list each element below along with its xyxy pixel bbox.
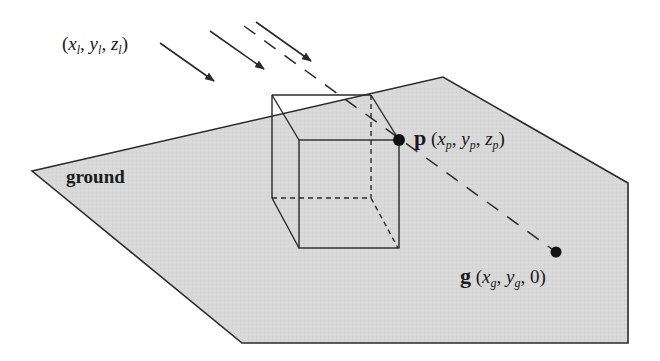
ground-plane bbox=[32, 77, 628, 343]
light-ray-arrow-1 bbox=[160, 43, 214, 81]
light-rays bbox=[160, 22, 311, 81]
shadow-projection-diagram: ground (xl, yl, zl) p (xp, yp, zp) g (xg… bbox=[0, 0, 660, 361]
point-p-label: p (xp, yp, zp) bbox=[414, 125, 505, 152]
light-source-label: (xl, yl, zl) bbox=[62, 33, 128, 57]
ground-label: ground bbox=[66, 166, 125, 187]
point-p-marker bbox=[393, 134, 405, 146]
point-g-marker bbox=[551, 247, 562, 258]
light-ray-arrow-2 bbox=[210, 31, 264, 69]
point-g-label: g (xg, yg, 0) bbox=[460, 263, 546, 290]
